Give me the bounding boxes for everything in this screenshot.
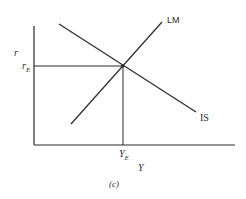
y-axis-label: r <box>14 48 18 58</box>
is-label: IS <box>200 113 209 123</box>
lm-label: LM <box>167 15 180 25</box>
lm-curve <box>71 22 162 124</box>
y-e-subscript: E <box>125 154 129 162</box>
y-e-label: YE <box>119 149 129 160</box>
equilibrium-point <box>121 64 124 67</box>
is-curve <box>59 24 196 112</box>
islm-diagram <box>0 0 246 199</box>
r-e-subscript: E <box>26 66 30 74</box>
r-e-label: rE <box>22 61 30 72</box>
x-axis-label: Y <box>138 163 144 173</box>
figure-caption: (c) <box>109 179 119 189</box>
y-e-main: Y <box>119 148 125 159</box>
